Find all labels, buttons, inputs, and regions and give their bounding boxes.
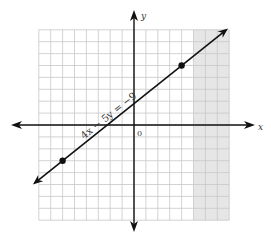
plotted-point — [59, 158, 65, 164]
x-axis-label: x — [258, 122, 263, 132]
equation-label: 4x − 5y = −9 — [78, 90, 138, 141]
coordinate-plane: y x 0 4x − 5y = −9 — [0, 0, 271, 236]
y-axis-label: y — [140, 11, 147, 21]
origin-label: 0 — [137, 129, 142, 138]
plotted-point — [178, 62, 184, 68]
